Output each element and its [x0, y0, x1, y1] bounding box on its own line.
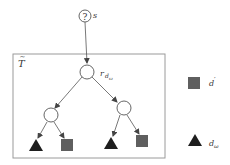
legend: d ′ d ω	[188, 76, 219, 149]
leaf-triangle-1	[29, 139, 43, 151]
svg-text:′: ′	[214, 76, 216, 84]
leaf-square-1	[61, 139, 73, 151]
root-node-label: r d ω	[100, 69, 113, 81]
legend-triangle-label: d ω	[209, 139, 219, 149]
legend-square-label: d ′	[209, 76, 216, 88]
legend-triangle-icon	[188, 134, 202, 146]
svg-text:~: ~	[20, 53, 26, 61]
root-node	[80, 65, 94, 79]
source-node: ?	[79, 10, 91, 22]
tree-diagram: ? s T ~ r d ω d ′ d ω	[0, 0, 230, 165]
question-mark: ?	[83, 12, 88, 22]
left-child-node	[44, 108, 58, 122]
svg-text:ω: ω	[214, 143, 219, 149]
leaf-triangle-2	[104, 137, 118, 149]
leaf-square-2	[136, 135, 148, 147]
legend-square-icon	[188, 77, 200, 89]
source-node-label: s	[93, 11, 97, 20]
right-child-node	[117, 101, 131, 115]
svg-text:ω: ω	[109, 76, 113, 81]
container-label: T ~	[18, 53, 26, 69]
